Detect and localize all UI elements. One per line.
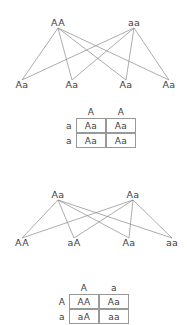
offspring-genotype-1: Aa <box>16 79 29 90</box>
punnett-row-header-1-1: a <box>62 118 76 133</box>
parent-genotype-aa-dominant: AA <box>51 17 65 28</box>
punnett-corner-1 <box>62 105 76 118</box>
punnett-column-header-1-2: A <box>106 105 136 118</box>
punnett-square-2: A a A AA Aa a aA aa <box>55 281 129 324</box>
punnett-row-header-2-2: a <box>55 309 69 324</box>
punnett-cell-1-r2c1: Aa <box>76 133 106 148</box>
parent-genotype-aa-recessive: aa <box>128 17 140 28</box>
punnett-cell-2-r2c1: aA <box>69 309 99 324</box>
punnett-column-header-2-2: a <box>99 281 129 294</box>
offspring-genotype-2: Aa <box>66 79 79 90</box>
offspring-genotype-8: aa <box>166 237 178 248</box>
punnett-cell-1-r2c2: Aa <box>106 133 136 148</box>
punnett-cell-2-r2c2: aa <box>99 309 129 324</box>
parent-genotype-heterozygous-2: Aa <box>127 189 140 200</box>
punnett-row-header-2-1: A <box>55 294 69 309</box>
parent-genotype-heterozygous-1: Aa <box>52 189 65 200</box>
cross-lines-2 <box>0 186 195 266</box>
offspring-genotype-7: Aa <box>123 237 136 248</box>
punnett-square-1: A A a Aa Aa a Aa Aa <box>62 105 136 148</box>
punnett-cell-2-r1c2: Aa <box>99 294 129 309</box>
punnett-cell-1-r1c2: Aa <box>106 118 136 133</box>
punnett-cell-1-r1c1: Aa <box>76 118 106 133</box>
offspring-genotype-3: Aa <box>120 79 133 90</box>
offspring-genotype-4: Aa <box>163 79 176 90</box>
punnett-cell-2-r1c1: AA <box>69 294 99 309</box>
genetic-cross-diagram-1: AA aa Aa Aa Aa Aa <box>0 0 195 100</box>
offspring-genotype-5: AA <box>15 237 29 248</box>
genetic-cross-diagram-2: Aa Aa AA aA Aa aa <box>0 186 195 266</box>
punnett-corner-2 <box>55 281 69 294</box>
punnett-row-header-1-2: a <box>62 133 76 148</box>
punnett-column-header-1-1: A <box>76 105 106 118</box>
punnett-column-header-2-1: A <box>69 281 99 294</box>
offspring-genotype-6: aA <box>68 237 81 248</box>
